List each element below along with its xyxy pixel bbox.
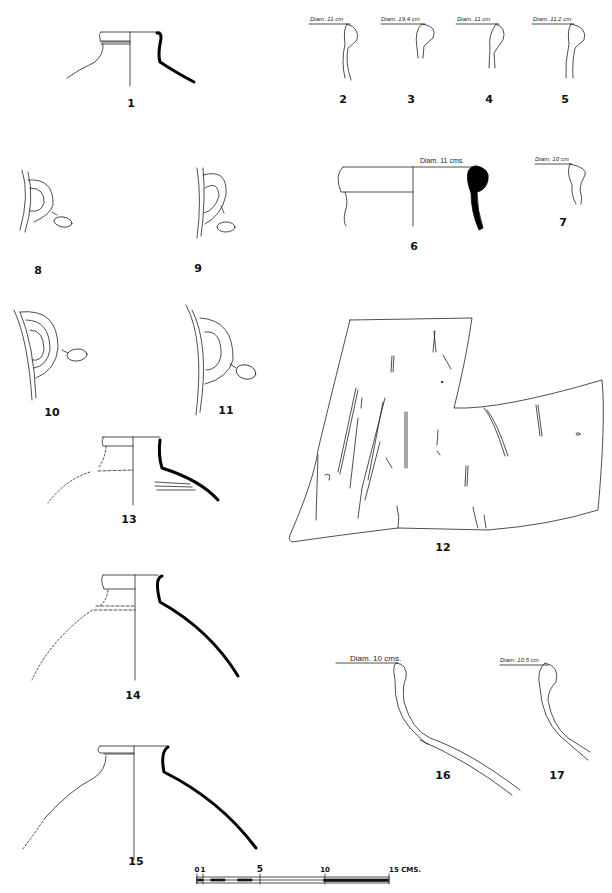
figure-6-label: 6 bbox=[410, 240, 418, 253]
figure-11-label: 11 bbox=[218, 404, 233, 417]
figure-4-diameter: Diam. 11 cm bbox=[457, 16, 490, 22]
figure-7-label: 7 bbox=[559, 216, 567, 229]
figure-13-label: 13 bbox=[121, 513, 136, 526]
figure-6-drawing bbox=[338, 166, 488, 230]
figure-17-label: 17 bbox=[549, 769, 564, 782]
figure-16-drawing bbox=[336, 663, 520, 795]
figure-9-label: 9 bbox=[194, 262, 202, 275]
plate-drawings bbox=[0, 0, 612, 893]
figure-13-drawing bbox=[48, 437, 218, 505]
figure-2-drawing bbox=[309, 24, 358, 80]
figure-11-drawing bbox=[186, 305, 257, 415]
scale-tick-5: 5 bbox=[257, 864, 263, 874]
figure-4-drawing bbox=[456, 24, 504, 68]
figure-3-label: 3 bbox=[407, 93, 415, 106]
figure-12-label: 12 bbox=[435, 541, 450, 554]
figure-2-diameter: Diam. 11 cm bbox=[310, 16, 343, 22]
figure-7-diameter: Diam. 10 cm bbox=[535, 156, 569, 162]
figure-1-drawing bbox=[67, 32, 194, 86]
figure-12-drawing bbox=[289, 318, 603, 542]
figure-5-drawing bbox=[532, 24, 585, 78]
scale-tick-10: 10 bbox=[320, 866, 330, 874]
scale-tick-15: 15 CMS. bbox=[389, 866, 421, 874]
figure-4-label: 4 bbox=[485, 93, 493, 106]
figure-3-drawing bbox=[381, 24, 434, 58]
figure-14-drawing bbox=[32, 575, 238, 680]
figure-3-diameter: Diam. 19.4 cm bbox=[381, 16, 420, 22]
figure-9-drawing bbox=[197, 168, 235, 238]
figure-14-label: 14 bbox=[125, 689, 140, 702]
figure-15-drawing bbox=[22, 746, 256, 860]
figure-17-diameter: Diam. 10.5 cm bbox=[500, 657, 539, 663]
pottery-plate: Diam. 11 cm Diam. 19.4 cm Diam. 11 cm Di… bbox=[0, 0, 612, 893]
figure-6-diameter: Diam. 11 cms. bbox=[420, 157, 464, 164]
figure-10-label: 10 bbox=[44, 406, 59, 419]
figure-15-label: 15 bbox=[128, 855, 143, 868]
scale-tick-1: 1 bbox=[201, 866, 206, 874]
figure-5-label: 5 bbox=[561, 93, 569, 106]
figure-2-label: 2 bbox=[339, 93, 347, 106]
figure-1-label: 1 bbox=[127, 97, 135, 110]
figure-16-label: 16 bbox=[435, 769, 450, 782]
figure-7-drawing bbox=[535, 164, 585, 204]
figure-5-diameter: Diam. 11.2 cm bbox=[533, 16, 571, 22]
figure-16-diameter: Diam. 10 cms. bbox=[350, 654, 401, 663]
figure-17-drawing bbox=[500, 663, 590, 760]
figure-10-drawing bbox=[14, 310, 87, 400]
scale-bar-drawing bbox=[197, 874, 389, 884]
scale-tick-0: 0 bbox=[195, 866, 200, 874]
figure-8-drawing bbox=[20, 170, 73, 232]
figure-8-label: 8 bbox=[34, 264, 42, 277]
